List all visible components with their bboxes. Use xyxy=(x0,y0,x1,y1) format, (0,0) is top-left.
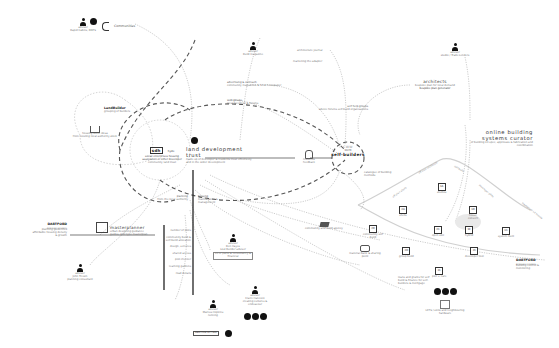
person-icon xyxy=(230,234,237,242)
bank-icon xyxy=(434,288,441,295)
advisor-build-magazine: advisor Build magazine xyxy=(233,42,273,57)
tools-icon xyxy=(440,300,450,309)
build-type-2a[interactable]: 2A shells xyxy=(399,195,407,217)
build-type-1c[interactable]: 1C system built xyxy=(498,216,514,238)
self-help-label: self help groups advice forums self-buil… xyxy=(318,106,368,112)
community-agency-node: community and build agency xyxy=(304,222,344,231)
build-type-2c[interactable]: 2C open slot xyxy=(432,215,444,237)
architecture-journal-label: architecture journal xyxy=(297,50,322,53)
heritage-lottery-logo: HERITAGE LOTTERY xyxy=(193,324,232,342)
self-builders-node[interactable]: CWW WLTB self-builders xyxy=(328,146,368,157)
architects-node[interactable]: architects bespoke plan for local demand… xyxy=(405,80,465,91)
materials-bank-node: material bank & sharing point xyxy=(348,245,382,259)
build-type-2b[interactable]: 2B community self build xyxy=(362,214,384,239)
social-enterprises-node[interactable]: sdh hyde social enterprises housing asso… xyxy=(138,138,186,165)
catalogue-label: catalogue of building methods xyxy=(364,172,396,178)
advisor-heritage: advisor Marcus Hopkins running xyxy=(196,300,230,318)
advisor-rapid-cabins: advisor Rapid Cabins, BDPS xyxy=(58,18,108,33)
finance-logos xyxy=(433,282,457,300)
lottery-icon xyxy=(225,330,232,337)
advisor-community: advisor Claire Hancock creating cultures… xyxy=(237,286,273,325)
bank-icon xyxy=(442,288,449,295)
plot-attributes-list: number of plots community build & self-b… xyxy=(164,229,191,278)
bank-icon xyxy=(450,288,457,295)
planning-node: planning from the local authority xyxy=(152,196,188,202)
housing-management-node: housing maintenance & management xyxy=(198,196,234,205)
trust-logo-icon xyxy=(191,137,198,144)
advertising-label: advertising & outreach community magazin… xyxy=(227,82,281,88)
org-icon xyxy=(260,313,267,320)
loans-label: loans and grants for self build & financ… xyxy=(398,277,432,286)
online-curator-node[interactable]: online building systems curator of build… xyxy=(465,130,533,148)
materials-icon xyxy=(360,245,370,252)
marketing-label: marketing the adapter xyxy=(293,61,322,64)
communities-logo: Communities xyxy=(102,17,135,35)
person-icon xyxy=(80,18,87,26)
advisor-finance: advisor Ben Hayes Lost Builder adviser k… xyxy=(213,234,253,260)
person-icon xyxy=(77,264,84,272)
build-type-1a[interactable]: 1A studios xyxy=(437,172,446,194)
residents-feedback-node: residents feedback xyxy=(297,150,321,165)
land-development-trust-node[interactable]: land development trust made up of develo… xyxy=(186,147,256,165)
web-groups-label: web groups local facebook & forums xyxy=(227,100,258,106)
person-icon xyxy=(452,43,459,51)
advisor-planning-consultant: advisor John Trewin planning consultant xyxy=(62,264,98,282)
person-icon xyxy=(250,42,257,50)
org-icon xyxy=(244,313,251,320)
build-type-2d[interactable]: 2D group build xyxy=(399,236,414,258)
lets-exchange-node: LETS / skills and neighbouring hardware xyxy=(425,300,465,316)
housing-stock-node: housing stock ideas from existing local … xyxy=(70,126,120,139)
building-icon xyxy=(90,126,100,133)
masterplanner-node[interactable]: masterplanner urban designing guidance g… xyxy=(110,226,152,237)
build-type-3c[interactable]: 3C plot + care xyxy=(432,256,446,278)
person-icon xyxy=(252,286,259,294)
build-type-developer[interactable]: 2C developer tool xyxy=(465,236,484,258)
dartford-council-right: DARTFORD BOROUGH COUNCIL building contro… xyxy=(516,259,554,271)
build-type-1e[interactable]: 1E hybrid xyxy=(465,215,473,237)
advisor-architect: advisor studio / Trade Lenders xyxy=(430,43,480,58)
org-icon xyxy=(252,313,259,320)
card-icon xyxy=(319,222,329,227)
landbuilder-node: LandBuilder grouping of builders xyxy=(104,107,130,114)
person-icon xyxy=(210,300,217,308)
dartford-council-left: DARTFORD BOROUGH COUNCIL planning guidel… xyxy=(32,223,67,238)
org-logo-icon xyxy=(90,18,97,25)
folder-icon xyxy=(96,222,108,233)
